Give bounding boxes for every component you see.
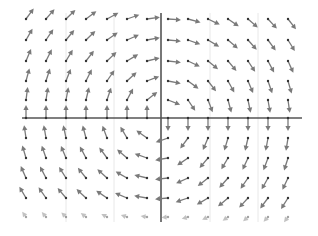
vector-arrow bbox=[126, 89, 133, 102]
tail-dot bbox=[287, 117, 289, 119]
tail-dot bbox=[126, 216, 128, 218]
vector-arrow bbox=[136, 131, 148, 140]
tail-dot bbox=[167, 99, 169, 101]
arrowhead-icon bbox=[223, 145, 228, 151]
arrowhead-icon bbox=[134, 194, 139, 199]
vector-arrow bbox=[124, 105, 129, 119]
vector-arrow bbox=[176, 177, 189, 184]
tail-dot bbox=[167, 60, 169, 62]
vector-arrow bbox=[106, 33, 118, 42]
tail-dot bbox=[65, 99, 67, 101]
arrowhead-icon bbox=[165, 126, 170, 131]
vector-arrow bbox=[176, 197, 190, 203]
tail-dot bbox=[247, 197, 249, 199]
arrowhead-icon bbox=[29, 9, 34, 15]
tail-dot bbox=[227, 137, 229, 139]
tail-dot bbox=[45, 99, 47, 101]
arrowhead-icon bbox=[175, 80, 180, 85]
tail-dot bbox=[187, 177, 189, 179]
tail-dot bbox=[25, 137, 27, 139]
vector-arrow bbox=[243, 216, 249, 221]
vector-arrows bbox=[19, 9, 296, 223]
vector-arrow bbox=[77, 189, 88, 199]
tail-dot bbox=[247, 117, 249, 119]
tail-dot bbox=[25, 80, 27, 82]
tail-dot bbox=[207, 99, 209, 101]
vector-arrow bbox=[104, 105, 109, 119]
tail-dot bbox=[85, 177, 87, 179]
vector-arrow bbox=[287, 39, 295, 51]
arrowhead-icon bbox=[141, 214, 146, 219]
vector-arrow bbox=[281, 197, 289, 209]
tail-dot bbox=[207, 177, 209, 179]
tail-dot bbox=[267, 39, 269, 41]
vector-arrow bbox=[117, 150, 128, 160]
tail-dot bbox=[65, 157, 67, 159]
vector-arrow bbox=[115, 192, 128, 199]
tail-dot bbox=[167, 80, 169, 82]
vector-arrow bbox=[167, 99, 180, 106]
arrowhead-icon bbox=[176, 59, 181, 64]
arrowhead-icon bbox=[154, 36, 159, 41]
arrowhead-icon bbox=[287, 108, 292, 113]
vector-arrow bbox=[200, 157, 210, 168]
vector-arrow bbox=[101, 214, 108, 219]
arrowhead-icon bbox=[176, 17, 181, 22]
tail-dot bbox=[267, 117, 269, 119]
tail-dot bbox=[187, 80, 189, 82]
vector-arrow bbox=[24, 87, 29, 101]
tail-dot bbox=[65, 39, 67, 41]
vector-arrow bbox=[265, 117, 270, 131]
vector-arrow bbox=[247, 99, 252, 113]
tail-dot bbox=[247, 80, 249, 82]
vector-arrow bbox=[155, 157, 169, 162]
tail-dot bbox=[146, 18, 148, 20]
vector-arrow bbox=[97, 169, 108, 179]
tail-dot bbox=[187, 157, 189, 159]
tail-dot bbox=[106, 39, 108, 41]
vector-arrow bbox=[267, 39, 276, 51]
tail-dot bbox=[227, 80, 229, 82]
vector-arrow bbox=[187, 39, 200, 45]
tail-dot bbox=[65, 216, 67, 218]
arrowhead-icon bbox=[136, 131, 142, 136]
vector-arrow bbox=[247, 60, 255, 72]
tail-dot bbox=[106, 99, 108, 101]
vector-arrow bbox=[245, 117, 250, 131]
tail-dot bbox=[85, 157, 87, 159]
tail-dot bbox=[247, 39, 249, 41]
tail-dot bbox=[267, 177, 269, 179]
tail-dot bbox=[267, 157, 269, 159]
tail-dot bbox=[267, 80, 269, 82]
vector-arrow bbox=[25, 49, 32, 62]
vector-arrow bbox=[202, 215, 209, 220]
tail-dot bbox=[25, 99, 27, 101]
tail-dot bbox=[167, 39, 169, 41]
tail-dot bbox=[25, 60, 27, 62]
vector-arrow bbox=[106, 88, 112, 102]
tail-dot bbox=[106, 80, 108, 82]
vector-arrow bbox=[41, 146, 47, 159]
arrowhead-icon bbox=[267, 107, 272, 112]
vector-arrow bbox=[85, 69, 92, 82]
tail-dot bbox=[167, 18, 169, 20]
arrowhead-icon bbox=[288, 88, 293, 94]
tail-dot bbox=[187, 117, 189, 119]
arrowhead-icon bbox=[107, 88, 112, 94]
tail-dot bbox=[85, 216, 87, 218]
arrowhead-icon bbox=[247, 107, 252, 112]
tail-dot bbox=[65, 117, 67, 119]
tail-dot bbox=[25, 117, 27, 119]
arrowhead-icon bbox=[42, 125, 47, 130]
tail-dot bbox=[65, 18, 67, 20]
arrowhead-icon bbox=[244, 145, 249, 150]
arrowhead-icon bbox=[63, 105, 68, 110]
arrowhead-icon bbox=[124, 105, 129, 110]
vector-arrow bbox=[146, 15, 160, 20]
tail-dot bbox=[25, 197, 27, 199]
vector-arrow bbox=[83, 105, 88, 119]
tail-dot bbox=[167, 177, 169, 179]
tail-dot bbox=[65, 80, 67, 82]
vector-arrow bbox=[284, 216, 289, 222]
tail-dot bbox=[126, 18, 128, 20]
